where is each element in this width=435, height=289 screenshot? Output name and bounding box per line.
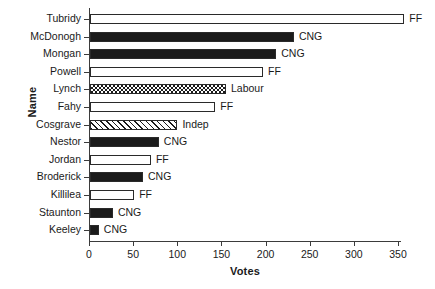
bar[interactable] [90, 49, 276, 59]
category-tick [84, 107, 89, 108]
bar[interactable] [90, 84, 226, 94]
chart-row: McDonoghCNG [89, 29, 398, 46]
x-axis-tick [398, 241, 399, 246]
x-axis-tick-label: 200 [246, 248, 286, 260]
category-label: Nestor [50, 135, 81, 148]
bar[interactable] [90, 67, 263, 77]
chart-row: MonganCNG [89, 46, 398, 63]
chart-row: CosgraveIndep [89, 117, 398, 134]
chart-row: KeeleyCNG [89, 222, 398, 239]
votes-bar-chart: Name TubridyFFMcDonoghCNGMonganCNGPowell… [0, 0, 435, 289]
category-label: Broderick [37, 170, 81, 183]
chart-row: FahyFF [89, 99, 398, 116]
category-tick [84, 230, 89, 231]
x-axis-tick-label: 350 [378, 248, 418, 260]
category-label: Cosgrave [36, 118, 81, 131]
x-axis-tick-label: 100 [157, 248, 197, 260]
category-label: Killilea [51, 188, 81, 201]
x-axis-tick [177, 241, 178, 246]
bar[interactable] [90, 102, 215, 112]
category-tick [84, 177, 89, 178]
bar[interactable] [90, 155, 151, 165]
category-tick [84, 142, 89, 143]
x-axis-tick [89, 241, 90, 246]
x-axis-tick-label: 50 [113, 248, 153, 260]
chart-row: TubridyFF [89, 11, 398, 28]
bar[interactable] [90, 172, 143, 182]
bar-annotation: Labour [231, 82, 264, 95]
category-tick [84, 72, 89, 73]
bar-annotation: CNG [104, 223, 127, 236]
category-label: Fahy [58, 100, 81, 113]
chart-row: JordanFF [89, 152, 398, 169]
bar-annotation: FF [409, 12, 422, 25]
category-label: Staunton [39, 206, 81, 219]
chart-row: BroderickCNG [89, 169, 398, 186]
bar[interactable] [90, 137, 159, 147]
bar[interactable] [90, 190, 134, 200]
chart-row: LynchLabour [89, 81, 398, 98]
chart-row: StauntonCNG [89, 205, 398, 222]
x-axis-tick [221, 241, 222, 246]
bar-annotation: FF [139, 188, 152, 201]
category-tick [84, 37, 89, 38]
category-tick [84, 213, 89, 214]
category-label: Tubridy [46, 12, 81, 25]
x-axis-tick [310, 241, 311, 246]
bar-annotation: Indep [182, 118, 208, 131]
x-axis-tick-label: 250 [290, 248, 330, 260]
plot-area: TubridyFFMcDonoghCNGMonganCNGPowellFFLyn… [89, 8, 398, 240]
x-axis-tick-label: 150 [201, 248, 241, 260]
x-axis-tick [354, 241, 355, 246]
chart-row: KillileaFF [89, 187, 398, 204]
x-axis-tick [133, 241, 134, 246]
category-label: Powell [50, 65, 81, 78]
category-label: Keeley [49, 223, 81, 236]
bar-annotation: FF [156, 153, 169, 166]
category-label: Jordan [49, 153, 81, 166]
bar-annotation: CNG [148, 170, 171, 183]
x-axis-tick-label: 300 [334, 248, 374, 260]
category-tick [84, 160, 89, 161]
chart-row: PowellFF [89, 64, 398, 81]
bar-annotation: CNG [118, 206, 141, 219]
x-axis-tick-label: 0 [69, 248, 109, 260]
bar-annotation: CNG [164, 135, 187, 148]
bar-annotation: CNG [281, 47, 304, 60]
x-axis-title: Votes [89, 265, 401, 277]
bar[interactable] [90, 208, 113, 218]
category-label: Mongan [43, 47, 81, 60]
category-tick [84, 89, 89, 90]
bar[interactable] [90, 14, 404, 24]
bar[interactable] [90, 32, 294, 42]
category-tick [84, 125, 89, 126]
x-axis-tick [266, 241, 267, 246]
category-tick [84, 54, 89, 55]
category-label: Lynch [53, 82, 81, 95]
category-tick [84, 19, 89, 20]
category-tick [84, 195, 89, 196]
bar[interactable] [90, 120, 177, 130]
category-label: McDonogh [30, 30, 81, 43]
bar-annotation: FF [220, 100, 233, 113]
chart-row: NestorCNG [89, 134, 398, 151]
bar-annotation: CNG [299, 30, 322, 43]
bar-annotation: FF [268, 65, 281, 78]
bar[interactable] [90, 225, 99, 235]
